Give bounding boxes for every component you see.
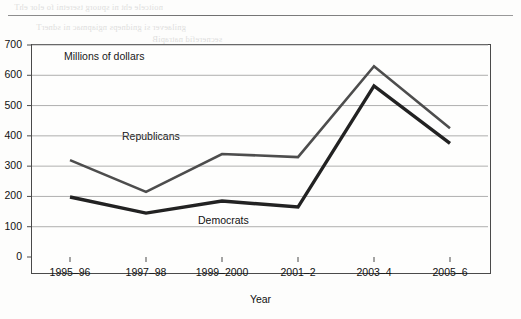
- chart-lines-svg: [0, 0, 521, 319]
- x-axis-title: Year: [0, 293, 521, 305]
- page-canvas: noitcele eht ni spuorg tseretni fo elor …: [0, 0, 521, 319]
- chart-figure: 0100200300400500600700 1995–961997–98199…: [0, 0, 521, 319]
